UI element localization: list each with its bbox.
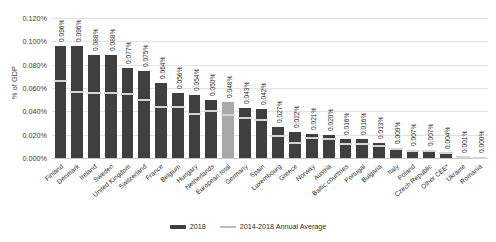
category-slot: Bulgaria <box>371 160 388 216</box>
annual-average-marker <box>70 91 84 93</box>
bar[interactable]: 0.096% <box>55 46 67 158</box>
annual-average-marker <box>456 156 470 158</box>
bar-slot: 0.088% <box>102 18 119 158</box>
y-axis-title: % of GDP <box>10 53 19 113</box>
bar-value-label: 0.022% <box>293 106 300 128</box>
bar[interactable]: 0.064% <box>155 83 167 158</box>
y-axis-tick-label: 0.080% <box>23 60 47 69</box>
y-axis-tick-label: 0.020% <box>23 130 47 139</box>
annual-average-marker <box>255 119 269 121</box>
y-axis-tick-label: 0.040% <box>23 107 47 116</box>
bar-slot: 0.013% <box>371 18 388 158</box>
legend-item-2018: 2018 <box>170 222 206 231</box>
annual-average-marker <box>271 135 285 137</box>
category-slot: Switzerland <box>136 160 153 216</box>
bar[interactable]: 0.021% <box>306 134 318 159</box>
annual-average-marker <box>439 152 453 154</box>
bar[interactable]: 0.009% <box>390 148 402 159</box>
bar-value-label: 0.075% <box>142 44 149 66</box>
annual-average-marker <box>171 106 185 108</box>
bar-value-label: 0.054% <box>192 69 199 91</box>
bar-value-label: 0.056% <box>175 66 182 88</box>
annual-average-marker <box>322 138 336 140</box>
bar-value-label: 0.020% <box>326 108 333 130</box>
category-slot: Denmark <box>69 160 86 216</box>
annual-average-marker <box>355 143 369 145</box>
bar[interactable]: 0.027% <box>272 127 284 159</box>
annual-average-marker <box>54 80 68 82</box>
bar-value-label: 0.007% <box>410 123 417 145</box>
annual-average-marker <box>473 157 487 159</box>
bar-slot: 0.050% <box>203 18 220 158</box>
bar-value-label: 0.064% <box>158 57 165 79</box>
category-slot: Baltic countries <box>337 160 354 216</box>
annual-average-marker <box>154 106 168 108</box>
bar[interactable]: 0.075% <box>138 71 150 159</box>
legend-item-average: 2014-2018 Annual Average <box>220 222 327 231</box>
bar[interactable]: 0.016% <box>340 139 352 158</box>
bar[interactable]: 0.043% <box>239 108 251 158</box>
bar-value-label: 0.013% <box>376 116 383 138</box>
bar-value-label: 0.096% <box>58 20 65 42</box>
annual-average-marker <box>389 148 403 150</box>
annual-average-marker <box>204 110 218 112</box>
bar-value-label: 0.001% <box>460 130 467 152</box>
bar[interactable]: 0.016% <box>356 139 368 158</box>
bar-slot: 0.004% <box>438 18 455 158</box>
bar-value-label: 0.043% <box>242 81 249 103</box>
bar[interactable]: 0.050% <box>205 100 217 158</box>
bar[interactable]: 0.004% <box>440 153 452 158</box>
category-slot: Romania <box>471 160 488 216</box>
bar-value-label: 0.007% <box>427 123 434 145</box>
bar-slot: 0.048% <box>220 18 237 158</box>
bar-slot: 0.021% <box>303 18 320 158</box>
bar[interactable]: 0.088% <box>105 55 117 158</box>
bar[interactable]: 0.000% <box>474 157 486 158</box>
bar-slot: 0.096% <box>69 18 86 158</box>
category-slot: European total <box>220 160 237 216</box>
annual-average-marker <box>288 142 302 144</box>
annual-average-marker <box>339 143 353 145</box>
bar[interactable]: 0.001% <box>457 157 469 158</box>
legend-swatch-average <box>220 226 236 228</box>
bar[interactable]: 0.054% <box>189 95 201 158</box>
plot-area: 0.000%0.020%0.040%0.060%0.080%0.100%0.12… <box>52 18 488 158</box>
bar-slot: 0.001% <box>454 18 471 158</box>
legend-label-2018: 2018 <box>190 222 206 231</box>
category-slot: Luxembourg <box>270 160 287 216</box>
bar-value-label: 0.096% <box>75 20 82 42</box>
bar-slot: 0.016% <box>354 18 371 158</box>
annual-average-marker <box>422 150 436 152</box>
bar-slot: 0.075% <box>136 18 153 158</box>
bar[interactable]: 0.007% <box>423 150 435 158</box>
bar[interactable]: 0.088% <box>88 55 100 158</box>
bar-value-label: 0.027% <box>276 100 283 122</box>
bar[interactable]: 0.048% <box>222 102 234 158</box>
bar-value-label: 0.048% <box>226 76 233 98</box>
bar[interactable]: 0.042% <box>256 109 268 158</box>
y-axis-tick-label: 0.120% <box>23 14 47 23</box>
bar[interactable]: 0.022% <box>289 132 301 158</box>
y-axis-tick-label: 0.060% <box>23 84 47 93</box>
bar[interactable]: 0.077% <box>122 68 134 158</box>
bar[interactable]: 0.096% <box>71 46 83 158</box>
bar-slot: 0.077% <box>119 18 136 158</box>
bar-value-label: 0.088% <box>108 29 115 51</box>
legend-label-average: 2014-2018 Annual Average <box>240 222 327 231</box>
annual-average-marker <box>372 145 386 147</box>
legend-swatch-2018 <box>170 225 186 229</box>
bar[interactable]: 0.013% <box>373 143 385 158</box>
bar-value-label: 0.000% <box>477 131 484 153</box>
bar-slot: 0.056% <box>169 18 186 158</box>
category-slot: Belgium <box>169 160 186 216</box>
bar-slot: 0.007% <box>404 18 421 158</box>
bar-value-label: 0.016% <box>360 113 367 135</box>
bar-slot: 0.020% <box>320 18 337 158</box>
bar[interactable]: 0.056% <box>172 93 184 158</box>
bar-value-label: 0.088% <box>91 29 98 51</box>
bar[interactable]: 0.007% <box>407 150 419 158</box>
bar[interactable]: 0.020% <box>323 135 335 158</box>
bar-slot: 0.000% <box>471 18 488 158</box>
legend: 2018 2014-2018 Annual Average <box>0 222 496 231</box>
bar-chart: % of GDP 0.000%0.020%0.040%0.060%0.080%0… <box>0 0 496 242</box>
